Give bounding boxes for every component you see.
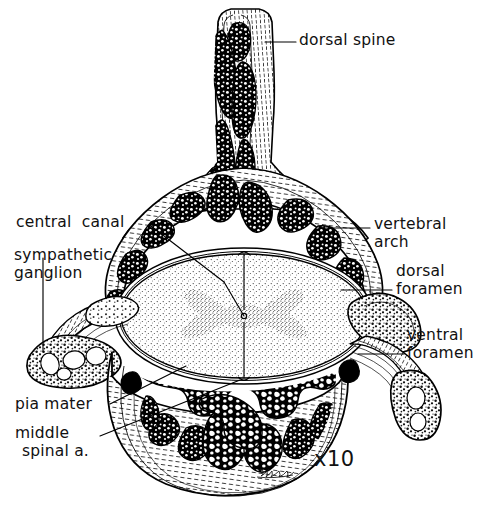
label-dorsal-foramen-line2: foramen xyxy=(396,281,463,299)
label-pia-mater: pia mater xyxy=(15,396,92,413)
label-middle-spinal-artery-line1: middle xyxy=(15,425,69,443)
label-central-canal: central canal xyxy=(16,214,124,231)
label-vertebral-arch-line1: vertebral xyxy=(374,216,447,234)
label-dorsal-spine: dorsal spine xyxy=(299,32,395,49)
magnification-label: x10 xyxy=(314,447,355,471)
label-ventral-foramen-line1: ventral xyxy=(407,327,463,345)
label-ventral-foramen-line2: foramen xyxy=(407,345,474,363)
label-sympathetic-ganglion-line1: sympathetic xyxy=(14,247,112,265)
label-middle-spinal-artery-line2: spinal a. xyxy=(22,443,89,461)
label-vertebral-arch-line2: arch xyxy=(374,234,409,252)
right-basivertebral-vessel xyxy=(339,360,359,383)
anatomical-figure: dorsal spine central canal sympathetic g… xyxy=(0,0,489,506)
label-sympathetic-ganglion-line2: ganglion xyxy=(14,265,83,283)
label-dorsal-foramen-line1: dorsal xyxy=(396,263,445,281)
